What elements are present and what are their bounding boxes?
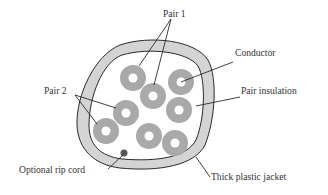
label-rip-cord: Optional rip cord	[19, 164, 85, 175]
label-pair-insulation: Pair insulation	[241, 85, 297, 96]
rip-cord	[121, 150, 128, 157]
label-pair1: Pair 1	[163, 8, 186, 19]
label-pair2: Pair 2	[44, 85, 67, 96]
label-conductor: Conductor	[235, 47, 276, 58]
label-jacket: Thick plastic jacket	[211, 171, 286, 182]
cable-cross-section-diagram: Pair 1 Pair 2 Conductor Pair insulation …	[0, 0, 328, 195]
